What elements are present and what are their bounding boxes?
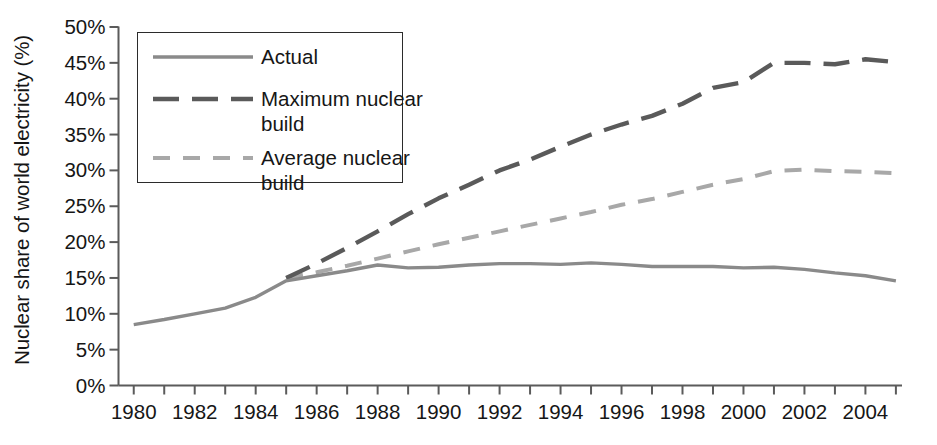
legend-line-swatch (151, 86, 255, 108)
legend-item-label: Actual (261, 44, 318, 69)
x-tick-label: 1994 (538, 400, 584, 424)
y-tick-label: 45% (64, 51, 105, 75)
legend-line-swatch (151, 145, 255, 167)
y-tick-label: 25% (64, 194, 105, 218)
y-axis-ticks (110, 27, 119, 386)
x-tick-label: 2000 (721, 400, 767, 424)
y-tick-label: 50% (64, 15, 105, 39)
x-tick-label: 1988 (355, 400, 401, 424)
legend-item-average-nuclear[interactable]: Average nuclear build (151, 145, 410, 195)
x-tick-label: 1982 (172, 400, 218, 424)
legend-line-swatch (151, 44, 255, 66)
y-tick-label: 10% (64, 302, 105, 326)
x-tick-label: 1986 (294, 400, 340, 424)
legend-item-maximum-nuclear[interactable]: Maximum nuclear build (151, 86, 423, 136)
y-tick-label: 40% (64, 87, 105, 111)
series-line (134, 263, 896, 325)
x-tick-label: 1998 (660, 400, 706, 424)
x-tick-label: 1980 (111, 400, 157, 424)
legend-item-label: Average nuclear build (261, 145, 410, 195)
y-tick-label: 30% (64, 158, 105, 182)
y-tick-label: 5% (76, 338, 106, 362)
legend-item-label: Maximum nuclear build (261, 86, 423, 136)
y-tick-label: 15% (64, 266, 105, 290)
x-axis-ticks (134, 386, 896, 395)
legend-item-actual[interactable]: Actual (151, 44, 318, 69)
x-tick-label: 1992 (477, 400, 523, 424)
x-tick-label: 2004 (843, 400, 889, 424)
x-tick-label: 1996 (599, 400, 645, 424)
x-tick-label: 2002 (782, 400, 828, 424)
y-tick-label: 35% (64, 123, 105, 147)
y-tick-label: 0% (76, 374, 106, 398)
nuclear-share-line-chart: Nuclear share of world electricity (%) 0… (0, 0, 937, 445)
x-tick-label: 1984 (233, 400, 279, 424)
x-tick-label: 1990 (416, 400, 462, 424)
y-tick-label: 20% (64, 230, 105, 254)
